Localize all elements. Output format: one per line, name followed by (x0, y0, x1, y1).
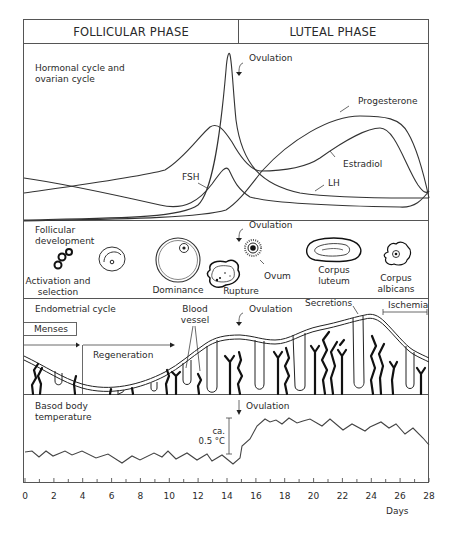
progesterone-label: Progesterone (358, 96, 418, 106)
regeneration-label: Regeneration (93, 350, 153, 360)
tick-label: 16 (250, 491, 262, 501)
bbt-title-2: temperature (35, 412, 92, 422)
follicular-panel: Follicular development Activation and se… (26, 220, 415, 297)
corpus-luteum-label-1: Corpus (318, 265, 350, 275)
endometrial-ovulation-arrow-icon (239, 313, 243, 322)
ruptured-follicle-icon (207, 260, 239, 287)
luteal-phase-label: LUTEAL PHASE (290, 25, 377, 39)
endometrial-title: Endometrial cycle (35, 304, 116, 314)
ovum-label: Ovum (264, 271, 291, 281)
ovulation-arrowhead-icon (236, 72, 242, 76)
tick-label: 22 (337, 491, 348, 501)
dominant-follicle-icon (156, 238, 200, 282)
activation-label-2: selection (38, 287, 78, 297)
endometrial-ovulation-label: Ovulation (249, 304, 292, 314)
secretions-pointer-icon (353, 306, 358, 314)
ovum-icon (245, 240, 261, 256)
follicular-ovulation-arrowhead-icon (236, 238, 242, 242)
fsh-pointer-icon (198, 183, 207, 188)
menses-label: Menses (34, 324, 68, 334)
endometrial-panel: Endometrial cycle Menses Regeneration Bl… (24, 298, 430, 395)
regeneration-arrowhead-icon (170, 343, 175, 348)
hormonal-title-2: ovarian cycle (35, 74, 95, 84)
tick-label: 6 (109, 491, 115, 501)
follicular-ovulation-label: Ovulation (249, 220, 292, 230)
follicular-title-2: development (35, 236, 95, 246)
progesterone-pointer-icon (340, 106, 349, 112)
hormonal-ovulation-label: Ovulation (249, 53, 292, 63)
x-axis-label: Days (386, 506, 409, 516)
tick-label: 12 (192, 491, 203, 501)
tick-label: 20 (308, 491, 320, 501)
bbt-title-1: Basod body (35, 401, 88, 411)
ischemia-label: Ischemia (388, 300, 428, 310)
estradiol-label: Estradiol (343, 159, 382, 169)
temperature-rise-label-1: ca. (212, 426, 225, 436)
tick-label: 26 (394, 491, 406, 501)
lh-pointer-icon (315, 185, 324, 191)
tick-label: 8 (138, 491, 144, 501)
bbt-ovulation-arrowhead-icon (237, 410, 242, 415)
temperature-rise-label-2: 0.5 °C (199, 436, 225, 446)
tick-label: 10 (164, 491, 176, 501)
tick-label: 4 (80, 491, 86, 501)
estradiol-pointer-icon (330, 151, 335, 157)
corpus-luteum-label-2: luteum (318, 276, 350, 286)
ovulation-arrow-icon (239, 63, 243, 72)
corpus-luteum-icon (307, 238, 361, 262)
hormonal-title-1: Hormonal cycle and (35, 63, 125, 73)
follicular-ovulation-arrow-icon (239, 229, 243, 238)
x-axis-tick-labels: 0 2 4 6 8 10 12 14 16 18 20 22 24 26 28 (22, 491, 435, 501)
menstrual-cycle-diagram: FOLLICULAR PHASE LUTEAL PHASE Hormonal c… (0, 0, 455, 536)
hormonal-panel: Hormonal cycle and ovarian cycle Ovulati… (24, 53, 429, 221)
tick-label: 0 (22, 491, 28, 501)
rupture-label: Rupture (223, 286, 259, 296)
tick-label: 14 (221, 491, 233, 501)
fsh-label: FSH (182, 172, 200, 182)
endometrial-ovulation-arrowhead-icon (236, 322, 242, 326)
secretions-label: Secretions (305, 298, 352, 308)
menses-arrowhead-icon (76, 343, 80, 348)
activation-label-1: Activation and (26, 276, 91, 286)
follicular-title-1: Follicular (35, 225, 76, 235)
tick-label: 28 (423, 491, 435, 501)
secondary-follicle-icon (99, 247, 125, 271)
ovum-pointer-icon (260, 260, 264, 264)
corpus-albicans-label-2: albicans (377, 284, 414, 294)
endometrium-surface (24, 314, 429, 391)
tick-label: 18 (279, 491, 291, 501)
dominance-label: Dominance (152, 285, 204, 295)
bbt-line (25, 418, 429, 464)
tick-label: 24 (366, 491, 378, 501)
x-axis-ticks (25, 478, 429, 482)
fsh-curve (24, 168, 429, 207)
corpus-albicans-label-1: Corpus (380, 273, 412, 283)
follicular-phase-label: FOLLICULAR PHASE (73, 25, 189, 39)
spiral-arteries (32, 332, 425, 394)
bbt-panel: Basod body temperature Ovulation ca. 0.5… (22, 400, 435, 516)
blood-vessel-label-2: vessel (181, 315, 209, 325)
corpus-albicans-icon (384, 242, 410, 265)
primordial-follicles-icon (55, 249, 73, 269)
lh-label: LH (328, 178, 340, 188)
blood-vessel-label-1: Blood (182, 304, 207, 314)
tick-label: 2 (51, 491, 57, 501)
phase-header: FOLLICULAR PHASE LUTEAL PHASE (24, 20, 429, 44)
bbt-ovulation-label: Ovulation (246, 401, 289, 411)
